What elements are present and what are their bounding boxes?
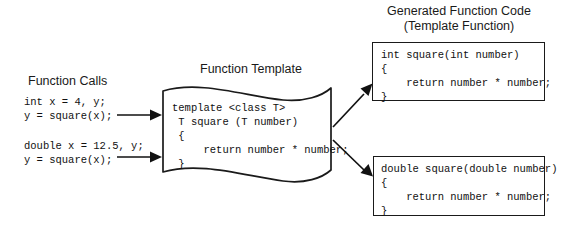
function-call-int-line2: y = square(x); [24,109,112,124]
generated-int-line1: int square(int number) [381,48,520,63]
generated-double-line2: { [381,176,387,191]
template-instantiation-diagram: Function Calls int x = 4, y; y = square(… [0,0,567,233]
function-calls-heading: Function Calls [28,74,107,88]
generated-code-heading-line2: (Template Function) [359,19,559,33]
template-code-line4: return number * number; [172,143,348,158]
generated-double-line1: double square(double number) [381,162,557,177]
generated-int-line2: { [381,62,387,77]
generated-double-line3: return number * number; [381,190,551,205]
template-code-line1: template <class T> [172,101,285,116]
generated-double-line4: } [381,204,387,219]
function-call-double-line2: y = square(x); [24,153,112,168]
function-call-double-line1: double x = 12.5, y; [24,139,144,154]
arrow-call-int-to-template [117,110,162,121]
template-code-line3: { [172,129,185,144]
generated-int-line3: return number * number; [381,76,551,91]
function-call-int-line1: int x = 4, y; [24,95,106,110]
generated-int-line4: } [381,90,387,105]
generated-code-heading-line1: Generated Function Code [359,4,559,18]
template-code-line5: } [172,157,185,172]
function-template-heading: Function Template [176,62,326,76]
template-code-line2: T square (T number) [172,115,298,130]
arrow-template-to-int-code [333,84,373,128]
